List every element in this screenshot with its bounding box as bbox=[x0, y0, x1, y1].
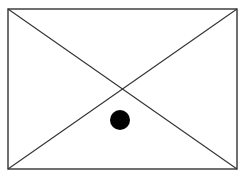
black-dot bbox=[110, 110, 130, 130]
diagram-canvas bbox=[0, 0, 243, 178]
